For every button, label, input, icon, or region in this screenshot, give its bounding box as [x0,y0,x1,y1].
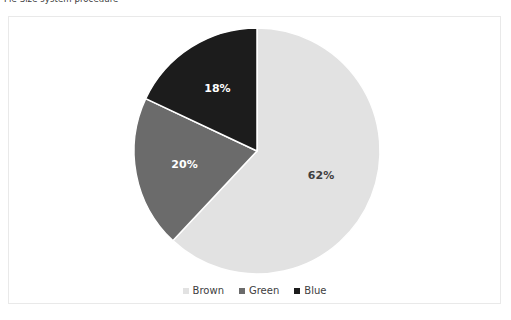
legend-label-green: Green [249,286,279,296]
legend-swatch-blue [294,288,300,294]
pie-slice-label-blue: 18% [204,82,230,95]
pie-slice-group [134,28,380,274]
legend-item-green[interactable]: Green [239,286,279,296]
legend-label-brown: Brown [193,286,224,296]
legend-swatch-brown [183,288,189,294]
chart-caption: Pie Size system procedure [4,0,304,6]
legend-swatch-green [239,288,245,294]
chart-frame: 62%20%18% BrownGreenBlue [8,16,501,304]
pie-chart-svg: 62%20%18% [9,17,502,305]
pie-slice-label-green: 20% [171,158,197,171]
pie-slice-label-brown: 62% [308,169,334,182]
legend-item-brown[interactable]: Brown [183,286,224,296]
legend-label-blue: Blue [304,286,326,296]
pie-chart-plot-area: 62%20%18% [9,17,502,305]
chart-legend: BrownGreenBlue [9,286,500,296]
chart-caption-text: Pie Size system procedure [4,0,304,6]
legend-item-blue[interactable]: Blue [294,286,326,296]
